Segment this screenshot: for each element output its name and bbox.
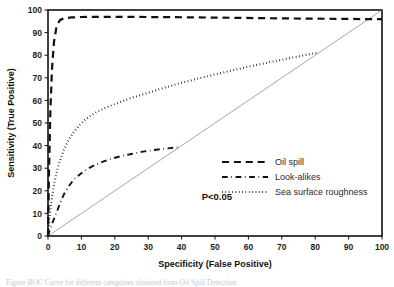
y-tick-label: 40 — [33, 141, 43, 151]
x-tick-label: 70 — [277, 242, 287, 252]
x-tick-label: 80 — [310, 242, 320, 252]
annotation-0: P<0.05 — [202, 191, 233, 202]
x-tick-label: 0 — [46, 242, 51, 252]
y-tick-label: 60 — [33, 96, 43, 106]
y-tick-label: 20 — [33, 186, 43, 196]
x-tick-label: 10 — [77, 242, 87, 252]
legend-label-0: Oil spill — [275, 157, 304, 167]
y-tick-label: 80 — [33, 50, 43, 60]
y-tick-label: 30 — [33, 163, 43, 173]
y-tick-label: 10 — [33, 209, 43, 219]
x-tick-label: 90 — [344, 242, 354, 252]
y-tick-label: 90 — [33, 28, 43, 38]
x-axis-title: Specificity (False Positive) — [158, 259, 272, 269]
x-tick-label: 40 — [177, 242, 187, 252]
y-axis-title: Sensitivity (True Positive) — [6, 68, 16, 178]
legend-label-2: Sea surface roughness — [275, 187, 368, 197]
y-tick-label: 0 — [37, 231, 42, 241]
x-tick-label: 30 — [143, 242, 153, 252]
roc-chart: 0102030405060708090100010203040506070809… — [0, 0, 394, 270]
legend-label-1: Look-alikes — [275, 172, 321, 182]
x-tick-label: 20 — [110, 242, 120, 252]
x-tick-label: 50 — [210, 242, 220, 252]
y-tick-label: 100 — [28, 5, 42, 15]
y-tick-label: 50 — [33, 118, 43, 128]
x-tick-label: 100 — [375, 242, 389, 252]
x-tick-label: 60 — [244, 242, 254, 252]
roc-figure: 0102030405060708090100010203040506070809… — [0, 0, 394, 287]
y-tick-label: 70 — [33, 73, 43, 83]
figure-caption: Figure ROC Curve for different categorie… — [0, 278, 394, 287]
